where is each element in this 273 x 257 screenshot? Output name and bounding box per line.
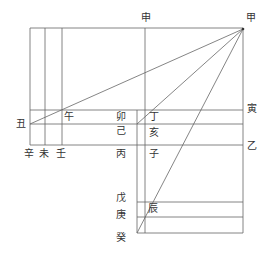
label-shen: 申 [141,13,151,23]
label-mao: 卯 [116,112,126,122]
label-yin: 寅 [247,104,257,114]
label-yi: 乙 [247,141,257,151]
label-bing: 丙 [116,149,126,159]
label-wu-earth: 戊 [116,193,126,203]
geometry-diagram [0,0,273,257]
label-ren: 壬 [56,149,66,159]
label-wei: 未 [39,149,49,159]
label-zi: 子 [149,149,159,159]
label-hai: 亥 [149,128,159,138]
label-chou: 丑 [16,119,26,129]
label-ding: 丁 [149,112,159,122]
label-ji: 己 [116,126,126,136]
jia-point [242,28,245,31]
label-gui: 癸 [116,233,126,243]
label-wu-noon: 午 [64,112,74,122]
label-geng: 庚 [116,210,126,220]
label-chen: 辰 [148,204,158,214]
label-jia: 甲 [246,13,256,23]
label-xin: 辛 [24,149,34,159]
